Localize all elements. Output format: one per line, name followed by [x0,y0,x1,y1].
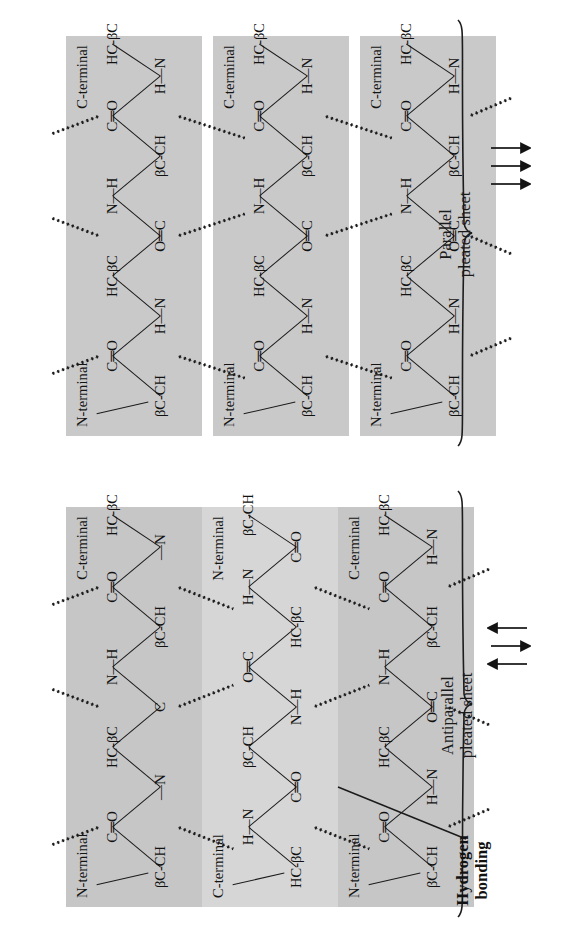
parallel-caption-line1: Parallel [436,209,455,259]
hydrogen-bonding-label: Hydrogen bonding [453,795,492,942]
hydrogen-bonding-line2: bonding [472,842,491,900]
beta-sheet-figure: N-terminalC-terminalβC-CHC═OH—NHC-βCO═CN… [0,0,561,942]
antiparallel-annotations: Antiparallel pleated sheet Hydrogen bond… [0,471,561,942]
hydrogen-bonding-line1: Hydrogen [453,835,472,905]
parallel-direction-arrows [487,139,531,203]
hydrogen-bonding-leader-line [338,787,468,847]
parallel-caption: Parallel pleated sheet [436,134,475,334]
parallel-annotations: Parallel pleated sheet [0,0,561,471]
antiparallel-caption-line1: Antiparallel [438,676,457,755]
parallel-caption-line2: pleated sheet [455,134,474,334]
antiparallel-direction-arrows [487,619,531,683]
